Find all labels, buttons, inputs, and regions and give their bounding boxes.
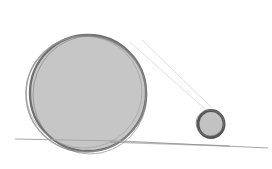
small-circle xyxy=(196,110,224,138)
large-circle xyxy=(26,35,147,154)
sketch-illustration xyxy=(0,0,272,169)
